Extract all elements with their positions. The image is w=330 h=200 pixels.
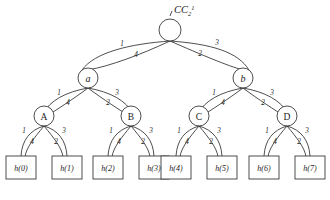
edge-weight-D-h6-outer: 1	[265, 127, 269, 135]
edge-root-b-inner	[170, 41, 243, 70]
edge-weight-a-B-outer: 3	[114, 89, 119, 97]
node-C-label: C	[196, 112, 202, 122]
edge-weight-B-h2-inner: 4	[117, 138, 121, 146]
edge-weight-b-D-inner: 2	[261, 99, 265, 107]
root-title-group: CC21	[170, 4, 195, 17]
tree-diagram-canvas: a b A B C D h(0) h(1) h(2) h(3) h(4) h(5…	[0, 0, 330, 200]
leaf-label-h3: h(3)	[147, 164, 161, 173]
edge-weight-b-C-outer: 1	[212, 89, 216, 97]
edge-weight-b-C-inner: 4	[221, 99, 225, 107]
leaf-label-h5: h(5)	[215, 164, 229, 173]
edge-weight-root-b-outer: 3	[214, 39, 219, 47]
root-title-main: CC	[174, 4, 189, 15]
node-a-label: a	[86, 73, 91, 84]
edge-weight-C-h4-outer: 1	[177, 127, 181, 135]
edge-weight-C-h5-inner: 2	[209, 138, 213, 146]
node-a-edges	[42, 88, 134, 116]
root-edges	[82, 41, 249, 70]
edge-weight-D-h6-inner: 4	[273, 138, 277, 146]
edge-weight-root-b-inner: 2	[198, 50, 202, 58]
leaf-label-h6: h(6)	[257, 164, 271, 173]
node-C-edges	[176, 126, 222, 157]
edge-root-b-outer	[170, 41, 249, 70]
edge-weight-a-B-inner: 2	[106, 99, 110, 107]
edge-weight-B-h3-outer: 3	[148, 127, 153, 135]
edge-weight-b-D-outer: 3	[269, 89, 274, 97]
leaf-label-h7: h(7)	[303, 164, 317, 173]
edge-weight-a-A-inner: 4	[66, 99, 70, 107]
edge-weight-C-h4-inner: 4	[185, 138, 189, 146]
leaf-label-h4: h(4)	[169, 164, 183, 173]
root-title-leader-icon	[170, 11, 172, 16]
edge-weight-B-h3-inner: 2	[141, 138, 145, 146]
edge-weight-C-h5-outer: 3	[216, 127, 221, 135]
node-B-edges	[108, 126, 154, 157]
edge-weight-A-h1-inner: 2	[54, 138, 58, 146]
edge-weight-a-A-outer: 1	[57, 89, 61, 97]
node-D-edges	[264, 126, 310, 157]
root-title-superscript: 1	[191, 4, 194, 11]
edge-weight-D-h7-inner: 2	[297, 138, 301, 146]
edge-weight-B-h2-outer: 1	[109, 127, 113, 135]
edge-weight-A-h1-outer: 3	[61, 127, 66, 135]
node-A-label: A	[41, 112, 48, 122]
root-title: CC21	[174, 4, 195, 17]
edge-weight-root-a-outer: 1	[120, 40, 124, 48]
tree-diagram: a b A B C D h(0) h(1) h(2) h(3) h(4) h(5…	[0, 0, 330, 200]
edge-weight-A-h0-inner: 4	[30, 138, 34, 146]
node-b-label: b	[241, 73, 246, 84]
node-B-label: B	[128, 112, 134, 122]
leaf-label-h2: h(2)	[101, 164, 115, 173]
root-title-subscript: 2	[188, 10, 192, 17]
edge-root-a-outer	[82, 41, 170, 70]
root-node[interactable]	[159, 19, 181, 41]
leaf-label-h1: h(1)	[60, 164, 74, 173]
edge-weight-root-a-inner: 4	[134, 51, 138, 59]
leaf-label-h0: h(0)	[14, 164, 28, 173]
edge-weight-D-h7-outer: 3	[304, 127, 309, 135]
node-D-label: D	[284, 112, 291, 122]
edge-weight-A-h0-outer: 1	[22, 127, 26, 135]
node-A-edges	[21, 126, 67, 157]
node-b-edges	[197, 88, 289, 116]
